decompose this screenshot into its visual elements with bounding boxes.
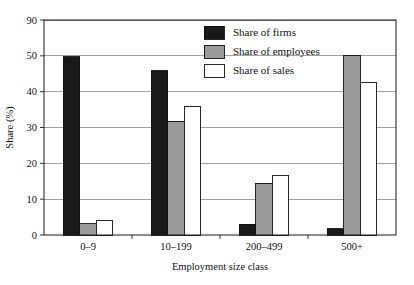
x-axis-title: Employment size class [172, 261, 268, 272]
legend-label: Share of employees [233, 45, 320, 57]
bar [96, 221, 112, 235]
chart-figure: 0102030405090 0–910–199200–499500+ Share… [0, 0, 414, 285]
y-tick-label: 40 [27, 86, 38, 97]
y-tick-label: 10 [27, 194, 38, 205]
legend-swatch [204, 64, 224, 77]
bar [327, 229, 343, 235]
bar [344, 56, 360, 235]
bar-chart: 0102030405090 0–910–199200–499500+ Share… [0, 0, 414, 285]
legend-swatch [204, 26, 224, 39]
y-tick-label: 90 [27, 15, 38, 26]
bar [256, 183, 272, 235]
bar [360, 83, 376, 235]
x-tick-label: 200–499 [246, 241, 283, 252]
y-tick-label: 50 [27, 50, 38, 61]
x-tick-label: 0–9 [80, 241, 96, 252]
bar [168, 121, 184, 235]
legend-label: Share of sales [233, 64, 294, 76]
bar [272, 176, 288, 235]
x-tick-label: 10–199 [160, 241, 192, 252]
y-tick-label: 30 [27, 122, 38, 133]
legend-swatch [204, 45, 224, 58]
bar [80, 224, 96, 235]
y-tick-label: 20 [27, 158, 38, 169]
x-tick-label: 500+ [341, 241, 363, 252]
y-axis-title: Share (%) [4, 106, 16, 149]
bar [239, 224, 255, 235]
bar [63, 57, 79, 235]
legend-label: Share of firms [233, 26, 296, 38]
bar [151, 71, 167, 235]
bar [184, 106, 200, 235]
y-tick-label: 0 [32, 230, 37, 241]
